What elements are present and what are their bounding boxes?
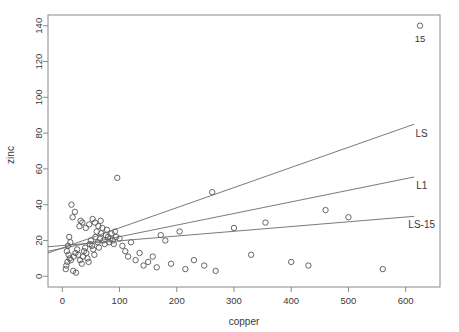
data-point	[145, 259, 150, 264]
data-point	[231, 225, 236, 230]
x-tick-label: 300	[226, 295, 242, 306]
x-tick-label: 0	[60, 295, 65, 306]
data-point	[150, 254, 155, 259]
x-tick-label: 600	[398, 295, 414, 306]
x-axis-title: copper	[229, 316, 260, 327]
x-tick-label: 500	[341, 295, 357, 306]
data-point	[70, 215, 75, 220]
point-annotations: 15	[415, 33, 426, 44]
data-point	[154, 265, 159, 270]
regression-lines	[48, 124, 414, 253]
y-tick-label: 100	[33, 89, 44, 105]
regression-line-ls	[48, 124, 414, 253]
data-point	[210, 189, 215, 194]
data-point	[163, 238, 168, 243]
data-point	[123, 249, 128, 254]
data-point	[141, 263, 146, 268]
data-point	[96, 245, 101, 250]
data-point	[87, 222, 92, 227]
data-point	[191, 257, 196, 262]
data-point	[85, 256, 90, 261]
y-tick-label: 60	[33, 164, 44, 175]
regression-line-l1	[48, 177, 414, 251]
data-point	[63, 266, 68, 271]
line-label-ls: LS	[416, 128, 429, 139]
data-point	[346, 215, 351, 220]
data-point	[133, 257, 138, 262]
data-point	[91, 247, 96, 252]
data-point	[417, 23, 422, 28]
x-tick-label: 200	[169, 295, 185, 306]
data-point	[380, 266, 385, 271]
data-point	[213, 268, 218, 273]
data-point	[168, 261, 173, 266]
data-point	[177, 229, 182, 234]
data-point	[98, 218, 103, 223]
data-point	[111, 241, 116, 246]
data-point	[183, 266, 188, 271]
data-point	[248, 252, 253, 257]
scatter-plot-figure: 0100200300400500600 020406080100120140 L…	[0, 0, 459, 332]
data-point	[306, 263, 311, 268]
data-point	[202, 263, 207, 268]
data-point	[66, 234, 71, 239]
line-label-l1: L1	[416, 180, 428, 191]
data-point	[263, 220, 268, 225]
data-point	[115, 175, 120, 180]
line-label-ls-15: LS-15	[408, 219, 435, 230]
data-point	[323, 207, 328, 212]
plot-canvas: 0100200300400500600 020406080100120140 L…	[0, 0, 459, 332]
y-tick-label: 40	[33, 199, 44, 210]
x-axis-ticks	[62, 287, 405, 292]
data-point	[69, 202, 74, 207]
x-axis-tick-labels: 0100200300400500600	[60, 295, 414, 306]
data-point	[86, 259, 91, 264]
x-tick-label: 100	[112, 295, 128, 306]
data-point	[289, 259, 294, 264]
y-tick-label: 120	[33, 54, 44, 70]
data-point	[92, 252, 97, 257]
data-point	[72, 209, 77, 214]
y-tick-label: 80	[33, 128, 44, 139]
y-axis-tick-labels: 020406080100120140	[33, 18, 44, 279]
data-point	[137, 250, 142, 255]
data-point	[125, 254, 130, 259]
y-tick-label: 0	[33, 274, 44, 279]
data-point	[83, 245, 88, 250]
y-tick-label: 140	[33, 18, 44, 34]
y-tick-label: 20	[33, 235, 44, 246]
data-point	[120, 243, 125, 248]
regression-line-labels: LSL1LS-15	[408, 128, 435, 230]
data-point	[77, 223, 82, 228]
point-annotation-15: 15	[415, 33, 426, 44]
x-tick-label: 400	[283, 295, 299, 306]
y-axis-title: zinc	[5, 146, 16, 164]
